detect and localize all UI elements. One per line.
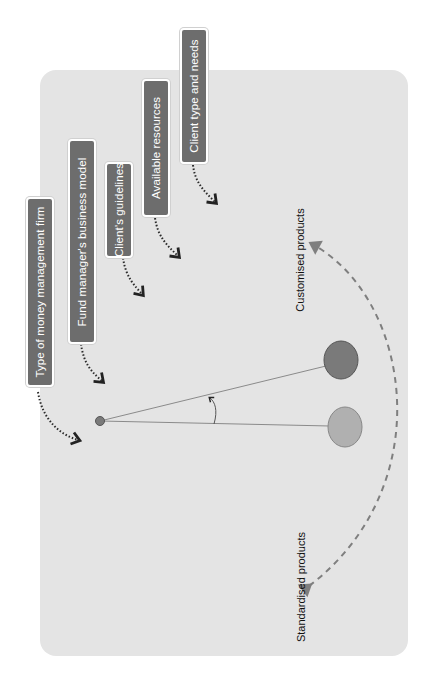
diagram-graphics (0, 0, 431, 686)
arrow-business-model (81, 344, 102, 381)
factor-label: Client type and needs (188, 39, 200, 152)
factor-label: Type of money management firm (34, 206, 46, 377)
standardised-circle (328, 407, 362, 447)
factor-type-of-firm: Type of money management firm (26, 197, 54, 387)
arrow-resources (155, 218, 178, 256)
factor-client-guidelines: Client's guidelines (105, 162, 133, 258)
angle-arc-arrow (210, 398, 216, 424)
factor-label: Client's guidelines (113, 163, 125, 257)
factor-business-model: Fund manager's business model (68, 139, 96, 344)
standardised-products-label: Standardised products (295, 532, 307, 642)
arrow-type-of-firm (38, 392, 78, 440)
origin-dot (96, 417, 105, 426)
customised-products-label: Customised products (294, 208, 306, 311)
arrow-guidelines (123, 258, 142, 294)
factor-available-resources: Available resources (142, 79, 170, 217)
arrow-client-type (193, 165, 215, 202)
factor-label: Fund manager's business model (76, 157, 88, 326)
factor-label: Available resources (150, 97, 162, 199)
factor-client-type: Client type and needs (180, 28, 208, 164)
customised-circle (324, 341, 358, 379)
angle-lines (100, 366, 330, 426)
